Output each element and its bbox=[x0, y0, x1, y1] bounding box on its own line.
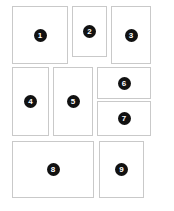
layout-panel-6[interactable]: 6 bbox=[97, 67, 151, 99]
layout-panel-2[interactable]: 2 bbox=[72, 6, 107, 57]
panel-number-badge: 8 bbox=[47, 163, 60, 176]
layout-panel-8[interactable]: 8 bbox=[12, 141, 94, 198]
panel-number-badge: 2 bbox=[83, 25, 96, 38]
layout-panel-4[interactable]: 4 bbox=[12, 67, 49, 136]
layout-panel-5[interactable]: 5 bbox=[53, 67, 93, 136]
panel-number-badge: 4 bbox=[24, 95, 37, 108]
layout-panel-1[interactable]: 1 bbox=[12, 6, 68, 64]
wireframe-canvas: 1 2 3 4 5 6 7 8 9 bbox=[0, 0, 174, 211]
layout-panel-9[interactable]: 9 bbox=[99, 141, 144, 198]
panel-number-badge: 7 bbox=[118, 112, 131, 125]
layout-panel-7[interactable]: 7 bbox=[97, 101, 151, 136]
panel-number-badge: 9 bbox=[115, 163, 128, 176]
panel-number-badge: 1 bbox=[34, 29, 47, 42]
panel-number-badge: 6 bbox=[118, 77, 131, 90]
layout-panel-3[interactable]: 3 bbox=[111, 6, 151, 64]
panel-number-badge: 5 bbox=[67, 95, 80, 108]
panel-number-badge: 3 bbox=[125, 29, 138, 42]
